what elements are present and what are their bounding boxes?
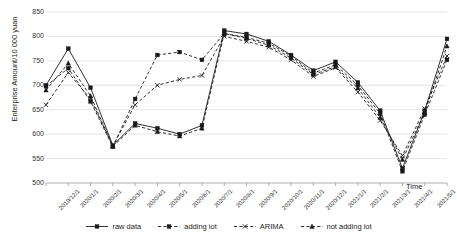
line-chart: 500550600650700750800850 2019/12/12020/1… xyxy=(0,0,457,245)
x-axis-tick-label: 2020/10/1 xyxy=(281,188,304,211)
legend-swatch-square-icon xyxy=(85,222,109,231)
x-axis-tick-label: 2020/9/1 xyxy=(257,188,278,209)
x-axis-tick-label: 2020/3/1 xyxy=(124,188,145,209)
legend-label: ARIMA xyxy=(260,222,284,231)
legend-item-ARIMA[interactable]: ARIMA xyxy=(233,222,284,231)
x-axis-ticks: 2019/12/12020/1/12020/2/12020/3/12020/4/… xyxy=(0,0,457,245)
legend-label: not adding iot xyxy=(327,222,372,231)
x-axis-tick-label: 2021/2/1 xyxy=(369,188,390,209)
x-axis-tick-label: 2021/5/1 xyxy=(436,188,457,209)
chart-legend: raw dataadding iotARIMAnot adding iot xyxy=(0,222,457,231)
x-axis-tick-label: 2020/1/1 xyxy=(79,188,100,209)
legend-swatch-cross-icon xyxy=(233,222,257,231)
y-axis-title: Enterprise Amount/10 000 yuan xyxy=(10,16,19,121)
x-axis-tick-label: 2020/8/1 xyxy=(235,188,256,209)
x-axis-tick-label: 2019/12/1 xyxy=(58,188,81,211)
x-axis-tick-label: 2020/5/1 xyxy=(168,188,189,209)
x-axis-tick-label: 2020/4/1 xyxy=(146,188,167,209)
legend-label: adding iot xyxy=(184,222,217,231)
legend-label: raw data xyxy=(112,222,141,231)
legend-item-not-adding-iot[interactable]: not adding iot xyxy=(300,222,372,231)
x-axis-tick-label: 2020/11/1 xyxy=(303,188,326,211)
legend-item-adding-iot[interactable]: adding iot xyxy=(157,222,217,231)
x-axis-tick-label: 2020/6/1 xyxy=(190,188,211,209)
legend-item-raw-data[interactable]: raw data xyxy=(85,222,141,231)
legend-swatch-square-icon xyxy=(157,222,181,231)
x-axis-tick-label: 2020/12/1 xyxy=(325,188,348,211)
y-axis-title-wrap: Enterprise Amount/10 000 yuan xyxy=(3,0,21,144)
x-axis-title-wrap: Time xyxy=(406,175,422,193)
x-axis-tick-label: 2021/1/1 xyxy=(346,188,367,209)
x-axis-tick-label: 2020/2/1 xyxy=(101,188,122,209)
legend-swatch-triangle-icon xyxy=(300,222,324,231)
x-axis-title: Time xyxy=(406,182,422,191)
x-axis-tick-label: 2020/7/1 xyxy=(213,188,234,209)
